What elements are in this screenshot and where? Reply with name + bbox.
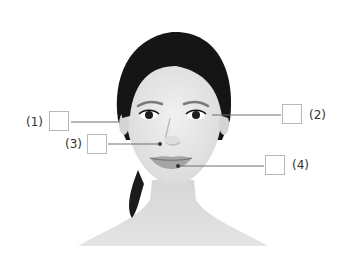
marker-label-2: (2)	[309, 108, 326, 122]
face-diagram: (1) (3) (2) (4)	[0, 0, 341, 255]
shoulders	[78, 180, 268, 246]
marker-dot-4	[176, 164, 180, 168]
marker-label-4: (4)	[292, 158, 309, 172]
answer-box-3[interactable]	[87, 134, 107, 154]
answer-box-4[interactable]	[265, 155, 285, 175]
answer-box-2[interactable]	[282, 104, 302, 124]
answer-box-1[interactable]	[49, 111, 69, 131]
marker-label-1: (1)	[26, 115, 43, 129]
marker-label-3: (3)	[65, 137, 82, 151]
marker-dot-3	[158, 142, 162, 146]
